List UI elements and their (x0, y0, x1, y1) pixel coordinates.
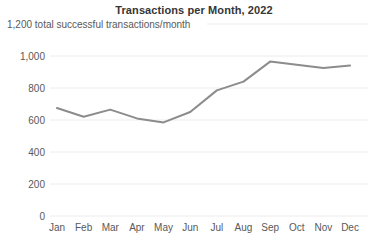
y-axis-tick-label: 600 (28, 115, 45, 126)
x-axis-tick-label: Nov (315, 222, 333, 233)
x-axis-tick-label: Jul (210, 222, 223, 233)
y-axis-tick-label: 400 (28, 147, 45, 158)
x-axis-tick-label: Jan (49, 222, 65, 233)
x-axis-tick-label: May (154, 222, 173, 233)
x-axis-tick-label: Aug (235, 222, 253, 233)
transactions-line-chart: Transactions per Month, 2022 1,200 total… (0, 0, 374, 247)
chart-canvas: 02004006008001,000JanFebMarAprMayJunJulA… (0, 0, 374, 247)
x-axis-tick-label: Feb (75, 222, 93, 233)
x-axis-tick-label: Apr (129, 222, 145, 233)
y-axis-tick-label: 800 (28, 83, 45, 94)
y-axis-tick-label: 200 (28, 179, 45, 190)
y-axis-tick-label: 0 (39, 211, 45, 222)
x-axis-tick-label: Dec (341, 222, 359, 233)
x-axis-tick-label: Mar (102, 222, 120, 233)
data-line (57, 62, 350, 123)
x-axis-tick-label: Oct (289, 222, 305, 233)
x-axis-tick-label: Sep (261, 222, 279, 233)
x-axis-tick-label: Jun (182, 222, 198, 233)
y-axis-tick-label: 1,000 (20, 51, 45, 62)
